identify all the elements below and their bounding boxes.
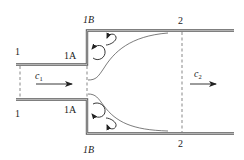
lower-jet-boundary [88,94,168,131]
label-inlet-velocity: c1 [35,70,43,82]
label-section-1B-top: 1B [83,14,94,25]
label-section-1A-bottom: 1A [64,104,77,115]
upper-jet-boundary [88,33,168,80]
label-section-1A-top: 1A [64,50,77,61]
label-section-2-bottom: 2 [178,138,183,149]
label-section-1-bottom: 1 [15,108,20,119]
lower-eddies-icon [92,103,116,129]
label-outlet-velocity: c2 [194,68,202,80]
label-section-1-top: 1 [15,46,20,57]
label-section-1B-bottom: 1B [83,144,94,155]
upper-eddies-icon [92,34,116,59]
upper-wall [16,31,234,65]
label-section-2-top: 2 [178,15,183,26]
lower-wall [16,100,234,134]
sudden-expansion-diagram: 1 1 1A 1A 1B 1B 2 2 c1 c2 [0,0,244,160]
